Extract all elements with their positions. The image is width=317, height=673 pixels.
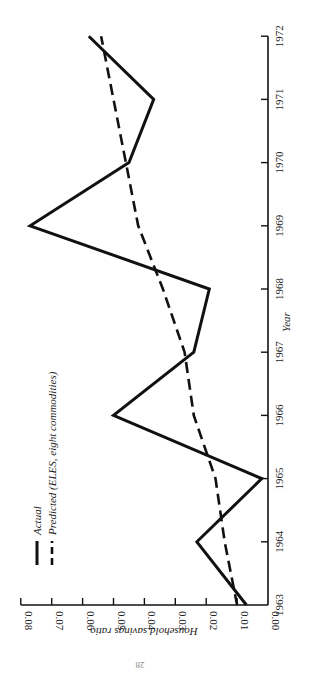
actual-line <box>30 36 262 605</box>
value-tick-label: 0.08 <box>23 611 35 631</box>
year-tick-label: 1972 <box>273 25 285 47</box>
y-axis-title: Household savings ratio <box>90 626 199 638</box>
year-tick-label: 1971 <box>273 88 285 110</box>
year-tick-label: 1969 <box>273 214 285 237</box>
value-tick-label: 0.02 <box>208 611 220 630</box>
data-series <box>30 36 262 605</box>
year-tick-label: 1970 <box>273 151 285 174</box>
value-tick-label: 0.01 <box>239 611 251 630</box>
axis-ticks: 0.000.010.020.030.040.050.060.070.081963… <box>21 25 285 631</box>
year-tick-label: 1963 <box>273 594 285 617</box>
legend-actual-label: Actual <box>31 506 43 536</box>
savings-ratio-chart: 0.000.010.020.030.040.050.060.070.081963… <box>0 0 317 673</box>
year-tick-label: 1968 <box>273 278 285 301</box>
legend: Actual Predicted (ELES, eight commoditie… <box>31 371 59 565</box>
year-tick-label: 1967 <box>273 341 285 364</box>
year-tick-label: 1964 <box>273 530 285 553</box>
value-tick-label: 0.07 <box>54 611 66 631</box>
year-tick-label: 1965 <box>273 467 285 490</box>
predicted-line <box>101 36 237 605</box>
page-number: 28 <box>135 660 145 670</box>
x-axis-title: Year <box>280 311 292 331</box>
year-tick-label: 1966 <box>273 404 285 427</box>
legend-predicted-label: Predicted (ELES, eight commodities) <box>46 371 59 536</box>
